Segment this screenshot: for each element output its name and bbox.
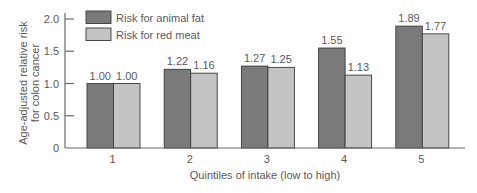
x-axis-title: Quintiles of intake (low to high) — [190, 169, 340, 181]
y-axis-title-line-1: Age-adjusted relative risk — [17, 21, 29, 145]
legend-label: Risk for animal fat — [116, 12, 204, 24]
bar-animal-fat — [164, 69, 191, 148]
x-tick-label: 3 — [264, 153, 270, 165]
y-tick-label: 1.5 — [44, 45, 59, 57]
bar-chart: 00.51.01.52.0 1.001.001.221.161.271.251.… — [0, 0, 477, 193]
bar-animal-fat — [396, 26, 423, 148]
bar-group-quintile-2: 1.221.16 — [164, 55, 217, 148]
x-tick-label: 1 — [109, 153, 115, 165]
x-tick-label: 4 — [341, 153, 347, 165]
bar-group-quintile-3: 1.271.25 — [241, 52, 294, 148]
legend-swatch — [86, 11, 111, 24]
bar-value-label: 1.00 — [116, 70, 137, 82]
y-axis-title-line-2: for colon cancer — [29, 44, 41, 123]
bar-group-quintile-4: 1.551.13 — [319, 34, 372, 148]
y-tick-label: 2.0 — [44, 13, 59, 25]
bar-value-label: 1.77 — [425, 20, 446, 32]
x-tick-label: 2 — [187, 153, 193, 165]
bar-group-quintile-1: 1.001.00 — [87, 70, 140, 149]
bar-animal-fat — [87, 84, 114, 149]
bar-red-meat — [191, 73, 218, 148]
bar-value-label: 1.16 — [193, 59, 214, 71]
bar-animal-fat — [319, 48, 346, 148]
x-tick-label: 5 — [418, 153, 424, 165]
legend-item-red-meat: Risk for red meat — [86, 28, 200, 41]
legend-item-animal-fat: Risk for animal fat — [86, 11, 204, 24]
bar-value-label: 1.27 — [244, 52, 265, 64]
legend-swatch — [86, 28, 111, 41]
y-tick-label: 0 — [53, 142, 59, 154]
y-tick-label: 0.5 — [44, 110, 59, 122]
bar-value-label: 1.13 — [348, 61, 369, 73]
bar-value-label: 1.55 — [321, 34, 342, 46]
legend-label: Risk for red meat — [116, 29, 200, 41]
bar-red-meat — [114, 84, 141, 149]
bar-value-label: 1.25 — [270, 53, 291, 65]
y-axis-title: Age-adjusted relative riskfor colon canc… — [17, 21, 41, 145]
bar-group-quintile-5: 1.891.77 — [396, 12, 449, 148]
bar-red-meat — [345, 75, 372, 148]
y-tick-label: 1.0 — [44, 78, 59, 90]
x-axis: 12345 — [65, 148, 465, 165]
legend: Risk for animal fatRisk for red meat — [86, 11, 204, 41]
bar-animal-fat — [241, 66, 268, 148]
bar-value-label: 1.00 — [90, 70, 111, 82]
y-axis: 00.51.01.52.0 — [44, 13, 74, 154]
bar-red-meat — [268, 67, 295, 148]
bar-value-label: 1.89 — [398, 12, 419, 24]
bar-red-meat — [422, 34, 449, 148]
bar-value-label: 1.22 — [167, 55, 188, 67]
